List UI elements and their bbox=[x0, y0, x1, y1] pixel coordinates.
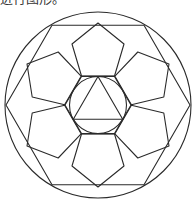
pentagon bbox=[115, 105, 169, 158]
pentagon bbox=[72, 23, 124, 76]
pentagon bbox=[27, 52, 81, 105]
pentagon-ring bbox=[27, 23, 169, 187]
inner-hexagon bbox=[65, 76, 131, 133]
inner-circle bbox=[70, 77, 127, 134]
pentagon bbox=[115, 52, 169, 105]
geometric-diagram bbox=[0, 0, 194, 205]
outer-circle bbox=[5, 12, 191, 198]
pentagon bbox=[72, 134, 124, 187]
pentagon bbox=[27, 105, 81, 158]
outer-hexagon bbox=[6, 25, 190, 184]
